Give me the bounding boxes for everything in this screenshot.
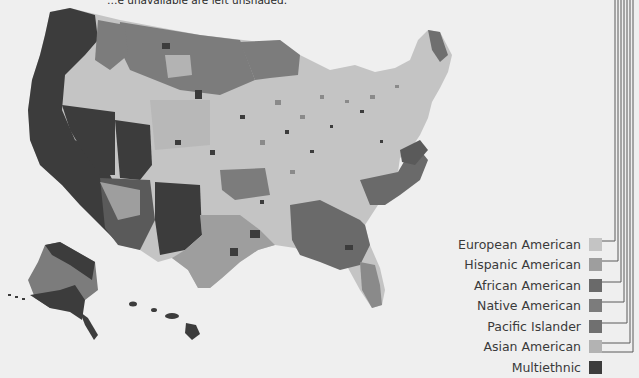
legend-swatch	[589, 258, 602, 271]
legend-swatch	[589, 279, 602, 292]
legend-label: Hispanic American	[464, 257, 581, 272]
legend-item-african-american: African American	[470, 275, 602, 296]
legend-item-pacific-islander: Pacific Islander	[470, 316, 602, 337]
legend-item-asian-american: Asian American	[470, 337, 602, 358]
legend-item-hispanic-american: Hispanic American	[470, 255, 602, 276]
legend-swatch	[589, 361, 602, 374]
legend-item-european-american: European American	[470, 234, 602, 255]
legend-swatch	[589, 340, 602, 353]
legend-label: Pacific Islander	[487, 319, 581, 334]
legend-item-multiethnic: Multiethnic	[470, 357, 602, 378]
map-legend: European American Hispanic American Afri…	[470, 234, 635, 378]
legend-swatch	[589, 320, 602, 333]
legend-label: Multiethnic	[512, 360, 581, 375]
legend-swatch	[589, 299, 602, 312]
legend-label: Native American	[477, 298, 581, 313]
legend-label: Asian American	[483, 339, 581, 354]
legend-label: African American	[474, 278, 581, 293]
legend-swatch	[589, 238, 602, 251]
legend-label: European American	[458, 237, 581, 252]
legend-item-native-american: Native American	[470, 296, 602, 317]
